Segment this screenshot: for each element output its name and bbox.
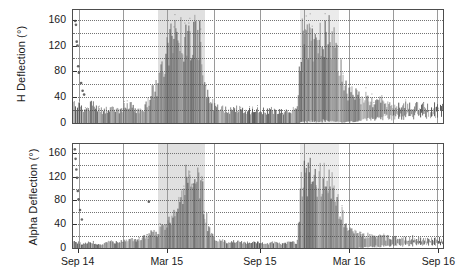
y-axis-title-top: H Deflection (°): [15, 4, 27, 124]
y-tick-label-bottom: 40: [36, 217, 66, 229]
y-tick-label-top: 40: [36, 90, 66, 102]
data-series-alpha-deflection: [73, 144, 443, 248]
x-tick-label: Sep 15: [228, 255, 292, 267]
plot-panel-alpha-deflection: [72, 143, 444, 249]
x-axis-tick: [78, 249, 79, 253]
plot-panel-h-deflection: [72, 9, 444, 124]
x-axis-tick: [438, 249, 439, 253]
x-tick-label: Sep 16: [406, 255, 463, 267]
figure-canvas: H Deflection (°) Alpha Deflection (°) 04…: [0, 0, 463, 280]
x-axis-tick: [349, 249, 350, 253]
y-tick-label-bottom: 160: [36, 146, 66, 158]
x-tick-label: Mar 16: [317, 255, 381, 267]
y-tick-label-bottom: 80: [36, 193, 66, 205]
y-tick-label-top: 80: [36, 64, 66, 76]
y-tick-label-bottom: 120: [36, 170, 66, 182]
x-axis-tick: [260, 249, 261, 253]
y-tick-label-bottom: 0: [36, 241, 66, 253]
data-series-h-deflection: [73, 10, 443, 123]
y-axis-tick: [73, 248, 77, 249]
y-tick-label-top: 0: [36, 116, 66, 128]
x-axis-tick: [167, 249, 168, 253]
y-tick-label-top: 120: [36, 39, 66, 51]
x-tick-label: Sep 14: [46, 255, 110, 267]
y-tick-label-top: 160: [36, 13, 66, 25]
x-tick-label: Mar 15: [135, 255, 199, 267]
y-axis-tick: [73, 123, 77, 124]
